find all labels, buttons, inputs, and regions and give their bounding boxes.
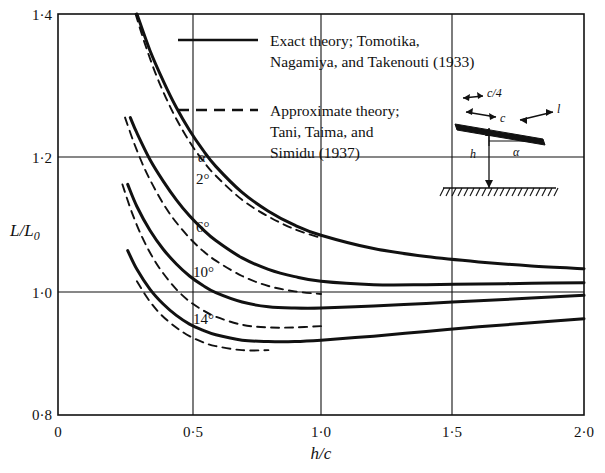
- figure-container: 1·4 1·2 1·0 0·8 0 0·5 1·0 1·5 2·0 L/L0 h…: [0, 0, 605, 473]
- legend-entry-approx-line2: Tani, Taima, and: [270, 123, 374, 140]
- quarter-chord-arrow: [463, 92, 483, 101]
- alpha-symbol-label: α: [198, 149, 207, 165]
- inset-diagram: c/4 c l α: [440, 86, 561, 196]
- curve-exact-theory-alpha-10: [128, 184, 584, 308]
- legend-entry-approx-line3: Simidu (1937): [270, 144, 360, 162]
- y-tick-1-0: 1·0: [32, 285, 52, 301]
- curve-label-2deg: 2°: [196, 171, 210, 187]
- y-tick-0-8: 0·8: [32, 407, 52, 423]
- y-axis-tick-labels: 1·4 1·2 1·0 0·8: [32, 7, 52, 423]
- legend-entry-exact-line2: Nagamiya, and Takenouti (1933): [270, 53, 474, 71]
- ground-plane: [440, 188, 558, 196]
- y-tick-1-4: 1·4: [32, 7, 52, 23]
- inset-label-lift: l: [557, 102, 561, 116]
- x-tick-2-0: 2·0: [574, 424, 594, 440]
- y-axis-title: L/L0: [9, 221, 40, 243]
- legend: Exact theory; Tomotika, Nagamiya, and Ta…: [178, 32, 474, 162]
- x-tick-1-5: 1·5: [442, 424, 462, 440]
- chord-arrow: [466, 108, 496, 120]
- curve-label-14deg: 14°: [193, 311, 214, 327]
- curve-label-6deg: 6°: [196, 219, 210, 235]
- y-tick-1-2: 1·2: [32, 150, 52, 166]
- inset-label-height: h: [470, 147, 476, 161]
- curve-label-10deg: 10°: [193, 264, 214, 280]
- height-arrow: [485, 128, 493, 188]
- aerofoil-shape: [455, 124, 545, 145]
- curve-approximate-theory-alpha-10: [122, 184, 321, 327]
- legend-entry-approx-line1: Approximate theory;: [270, 102, 400, 119]
- inset-label-angle: α: [513, 145, 520, 159]
- x-tick-0-5: 0·5: [183, 424, 203, 440]
- x-tick-0: 0: [54, 424, 62, 440]
- legend-entry-exact-line1: Exact theory; Tomotika,: [270, 32, 420, 49]
- vertical-gridlines: [193, 14, 452, 415]
- lift-arrow: [520, 109, 553, 124]
- y-axis-title-main: L/L: [9, 221, 34, 240]
- x-axis-tick-labels: 0 0·5 1·0 1·5 2·0: [54, 424, 594, 440]
- lift-ratio-chart: 1·4 1·2 1·0 0·8 0 0·5 1·0 1·5 2·0 L/L0 h…: [0, 0, 605, 473]
- x-tick-1-0: 1·0: [311, 424, 331, 440]
- y-axis-title-subscript: 0: [34, 229, 40, 243]
- inset-label-chord: c: [500, 111, 506, 125]
- x-axis-title: h/c: [311, 444, 332, 463]
- inset-label-quarter-chord: c/4: [487, 86, 502, 100]
